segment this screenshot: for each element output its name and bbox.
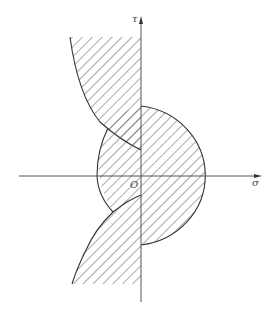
tau-label: τ (132, 13, 138, 24)
diagram-canvas: τ σ O (0, 0, 273, 319)
lower-left-hatched-region (72, 195, 141, 284)
tau-arrow-icon (139, 16, 143, 24)
stress-region-diagram: τ σ O (0, 0, 273, 319)
sigma-label: σ (252, 177, 260, 188)
origin-label: O (130, 179, 138, 190)
